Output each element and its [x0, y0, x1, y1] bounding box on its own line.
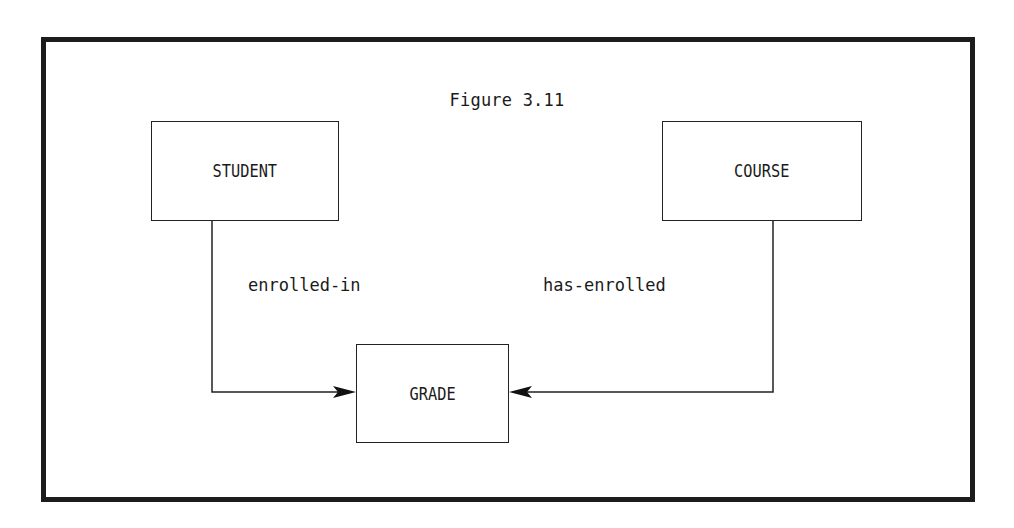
entity-grade: GRADE — [356, 344, 509, 443]
entity-student: STUDENT — [151, 121, 339, 221]
entity-label: GRADE — [409, 384, 455, 404]
figure-title: Figure 3.11 — [0, 90, 1014, 110]
entity-course: COURSE — [662, 121, 862, 221]
relationship-label-has-enrolled: has-enrolled — [543, 275, 666, 295]
entity-label: COURSE — [734, 161, 789, 181]
relationship-label-enrolled-in: enrolled-in — [248, 275, 361, 295]
entity-label: STUDENT — [213, 161, 277, 181]
